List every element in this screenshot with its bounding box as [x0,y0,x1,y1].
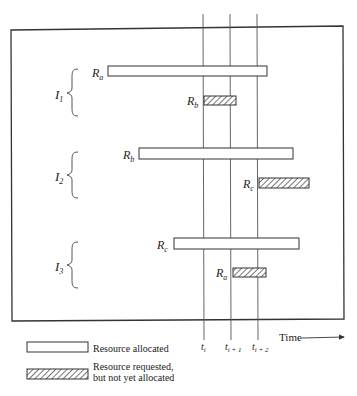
requested-bar [259,178,309,188]
allocated-bar [139,148,293,159]
requested-bar [233,268,266,277]
resource-label: Rb [122,148,134,164]
resource-label: Rc [242,177,254,193]
tick-ti2: ti + 2 [252,341,269,354]
deadlock-resource-diagram: I1 Ra Rb I2 Rb Rc I3 Rc Ra ti ti + 1 ti … [0,0,357,396]
time-line-ti2 [257,14,258,340]
brace-icon [67,69,78,116]
tick-ti: ti [201,341,206,354]
allocated-bar [174,238,299,249]
time-line-ti1 [230,14,231,340]
process-i1: I1 Ra Rb [54,66,267,116]
process-i3: I3 Rc Ra [54,238,299,288]
legend: Resource allocated Resource requested, b… [27,342,174,383]
brace-icon [67,242,78,288]
process-label: I2 [54,169,63,186]
brace-icon [67,152,78,198]
svg-text:Time: Time [279,331,302,343]
process-label: I1 [54,87,63,104]
legend-requested-label-line2: but not yet allocated [93,372,174,383]
legend-allocated-label: Resource allocated [93,343,169,354]
arrow-right-icon [302,337,344,338]
requested-bar [204,96,236,105]
process-i2: I2 Rb Rc [54,148,309,198]
process-label: I3 [54,259,63,276]
allocated-bar [108,66,267,76]
resource-label: Rc [156,238,168,254]
legend-requested-swatch [27,369,88,379]
resource-label: Ra [215,266,227,282]
tick-ti1: ti + 1 [225,341,241,354]
legend-allocated-swatch [27,342,88,352]
time-tick-labels: ti ti + 1 ti + 2 [201,341,269,354]
time-axis-label: Time [279,331,344,343]
resource-label: Rb [186,94,198,110]
time-line-ti [203,14,204,340]
legend-requested-label-line1: Resource requested, [93,361,174,372]
resource-label: Ra [91,66,103,82]
